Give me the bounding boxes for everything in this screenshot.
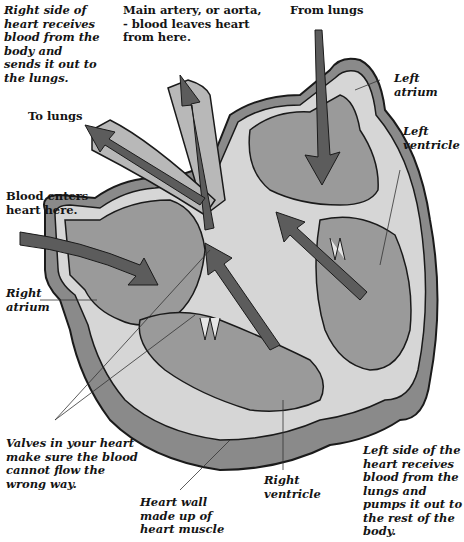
label-blood-enters: Blood enters heart here. xyxy=(6,190,88,217)
label-left-ventricle: Left ventricle xyxy=(403,125,460,152)
label-right-side-description: Right side of heart receives blood from … xyxy=(4,4,100,85)
label-right-ventricle: Right ventricle xyxy=(264,474,321,501)
label-aorta: Main artery, or aorta, - blood leaves he… xyxy=(123,4,261,45)
label-from-lungs: From lungs xyxy=(290,4,363,18)
label-valves: Valves in your heart make sure the blood… xyxy=(6,437,138,491)
label-left-side-description: Left side of the heart receives blood fr… xyxy=(363,444,462,539)
label-heart-wall: Heart wall made up of heart muscle xyxy=(140,496,224,537)
label-left-atrium: Left atrium xyxy=(394,72,438,99)
label-right-atrium: Right atrium xyxy=(6,287,50,314)
label-to-lungs: To lungs xyxy=(28,110,83,124)
